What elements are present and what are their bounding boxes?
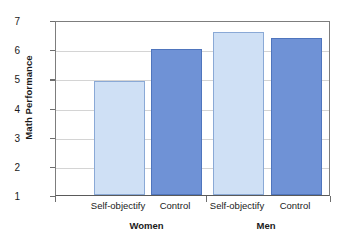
y-tick-label: 7	[0, 16, 20, 27]
x-category-label: Control	[280, 200, 311, 211]
x-group-label-women: Women	[129, 220, 163, 231]
x-group-separator-tick	[330, 196, 331, 202]
x-group-label-men: Men	[257, 220, 276, 231]
y-tick-label: 3	[0, 132, 20, 143]
y-tick-label: 4	[0, 103, 20, 114]
bar-women-self-objectify	[94, 81, 145, 195]
x-group-separator-tick	[55, 196, 56, 202]
y-tick-label: 2	[0, 161, 20, 172]
x-category-label: Self-objectify	[91, 200, 145, 211]
bar-men-self-objectify	[213, 32, 264, 195]
plot-area	[55, 21, 330, 196]
bar-women-control	[151, 49, 202, 195]
y-tick-label: 1	[0, 191, 20, 202]
x-category-label: Self-objectify	[210, 200, 264, 211]
bar-chart: Math Performance 1234567 Self-objectifyC…	[0, 0, 353, 243]
y-axis-title: Math Performance	[23, 18, 34, 178]
x-category-label: Control	[160, 200, 191, 211]
y-tick-label: 6	[0, 45, 20, 56]
x-group-separator-tick	[206, 196, 207, 202]
y-tick-label: 5	[0, 74, 20, 85]
bar-men-control	[271, 38, 322, 196]
